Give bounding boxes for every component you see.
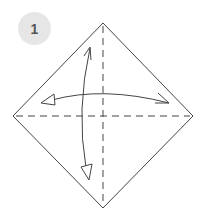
origami-diagram bbox=[0, 0, 207, 218]
horizontal-fold-arrow-icon bbox=[41, 93, 169, 105]
vertical-fold-arrow-icon bbox=[81, 47, 92, 180]
